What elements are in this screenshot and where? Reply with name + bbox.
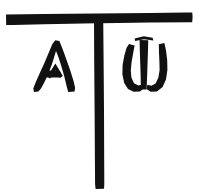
omega-letter-group — [122, 36, 167, 92]
christogram-figure: Tau cross monogram with Alpha and Omega … — [0, 0, 199, 195]
christogram-canvas — [0, 0, 199, 195]
tau-stem-shape — [94, 17, 104, 189]
